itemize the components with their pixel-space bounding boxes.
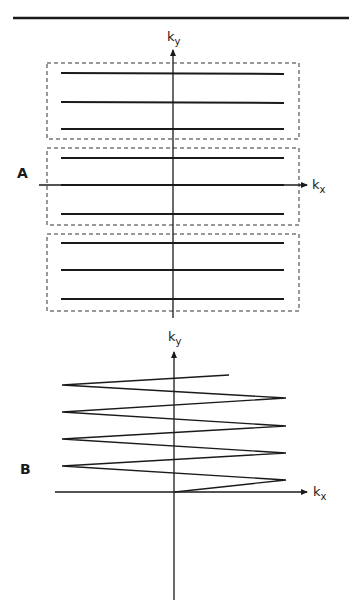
ky-label-a: ky bbox=[167, 29, 181, 47]
panel-label-a: A bbox=[17, 165, 28, 181]
kspace-figure: ky kx A ky kx B bbox=[0, 0, 349, 615]
panel-label-b: B bbox=[20, 461, 31, 477]
kx-label-b: kx bbox=[313, 484, 327, 502]
panel-b: ky kx B bbox=[20, 329, 327, 600]
kx-label-a: kx bbox=[312, 177, 326, 195]
ky-label-b: ky bbox=[168, 329, 182, 347]
panel-a: ky kx A bbox=[17, 29, 326, 318]
